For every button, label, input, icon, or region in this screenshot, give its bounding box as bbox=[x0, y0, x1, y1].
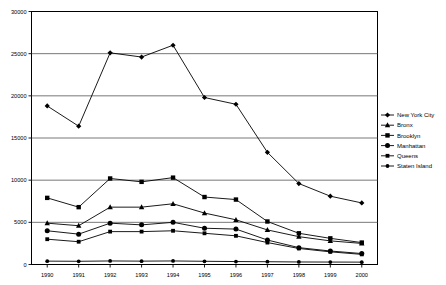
legend-label: Staten Island bbox=[397, 163, 432, 169]
data-point bbox=[45, 228, 50, 233]
x-tick-label: 1993 bbox=[135, 272, 147, 278]
legend-marker bbox=[385, 143, 390, 148]
data-point bbox=[360, 240, 364, 244]
data-point bbox=[202, 195, 206, 199]
y-tick-label: 0 bbox=[23, 262, 26, 268]
data-point bbox=[139, 180, 143, 184]
data-point bbox=[233, 227, 238, 232]
x-tick-label: 1999 bbox=[324, 272, 336, 278]
data-point bbox=[140, 230, 144, 234]
x-tick-label: 1991 bbox=[72, 272, 84, 278]
data-point bbox=[171, 175, 175, 179]
x-tick-label: 1998 bbox=[293, 272, 305, 278]
y-tick-label: 30000 bbox=[11, 9, 27, 15]
legend-label: New York City bbox=[397, 112, 434, 118]
x-tick-label: 1996 bbox=[230, 272, 242, 278]
data-point bbox=[76, 205, 80, 209]
x-tick-label: 1990 bbox=[41, 272, 53, 278]
y-tick-label: 10000 bbox=[11, 177, 27, 183]
data-point bbox=[45, 237, 49, 241]
data-point bbox=[297, 260, 301, 264]
data-point bbox=[108, 259, 112, 263]
legend-label: Queens bbox=[397, 153, 418, 159]
y-tick-label: 5000 bbox=[14, 219, 26, 225]
x-tick-label: 1997 bbox=[261, 272, 273, 278]
x-tick-label: 1992 bbox=[104, 272, 116, 278]
data-point bbox=[266, 260, 270, 264]
y-tick-label: 20000 bbox=[11, 93, 27, 99]
data-point bbox=[266, 241, 270, 245]
x-tick-label: 1995 bbox=[198, 272, 210, 278]
legend-marker bbox=[386, 154, 390, 158]
data-point bbox=[77, 259, 81, 263]
chart-container: 0500010000150002000025000300001990199119… bbox=[0, 0, 446, 285]
data-point bbox=[77, 240, 81, 244]
data-point bbox=[108, 176, 112, 180]
data-point bbox=[171, 259, 175, 263]
data-point bbox=[108, 230, 112, 234]
data-point bbox=[265, 219, 269, 223]
data-point bbox=[360, 260, 364, 264]
data-point bbox=[203, 231, 207, 235]
x-tick-label: 2000 bbox=[356, 272, 368, 278]
data-point bbox=[203, 259, 207, 263]
y-tick-label: 15000 bbox=[11, 135, 27, 141]
data-point bbox=[202, 226, 207, 231]
legend-marker bbox=[385, 133, 389, 137]
data-point bbox=[171, 220, 176, 225]
data-point bbox=[45, 259, 49, 263]
legend-marker bbox=[385, 112, 390, 117]
data-point bbox=[234, 260, 238, 264]
data-point bbox=[328, 260, 332, 264]
data-point bbox=[234, 197, 238, 201]
data-point bbox=[108, 221, 113, 226]
legend-marker bbox=[386, 164, 390, 168]
legend-label: Brooklyn bbox=[397, 133, 420, 139]
data-point bbox=[328, 236, 332, 240]
data-point bbox=[171, 229, 175, 233]
x-tick-label: 1994 bbox=[167, 272, 179, 278]
data-point bbox=[297, 231, 301, 235]
data-point bbox=[234, 234, 238, 238]
data-point bbox=[76, 232, 81, 237]
line-chart: 0500010000150002000025000300001990199119… bbox=[0, 0, 446, 285]
data-point bbox=[328, 250, 332, 254]
data-point bbox=[360, 252, 364, 256]
data-point bbox=[140, 259, 144, 263]
y-tick-label: 25000 bbox=[11, 51, 27, 57]
legend-label: Bronx bbox=[397, 122, 413, 128]
legend-label: Manhattan bbox=[397, 143, 425, 149]
data-point bbox=[139, 222, 144, 227]
data-point bbox=[297, 247, 301, 251]
data-point bbox=[45, 196, 49, 200]
legend: New York CityBronxBrooklynManhattanQueen… bbox=[381, 112, 434, 169]
